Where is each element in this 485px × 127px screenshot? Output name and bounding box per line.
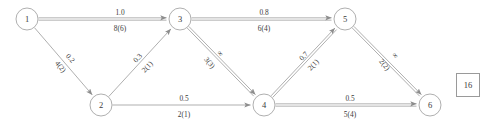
edge-3-to-5 <box>192 18 332 20</box>
node-5: 5 <box>334 8 356 30</box>
edge-capacity-4-to-5: 2(1) <box>306 57 321 73</box>
node-3: 3 <box>169 8 191 30</box>
edge-1-to-2 <box>35 28 93 95</box>
edge-4-to-5 <box>271 28 337 97</box>
edge-layer <box>35 18 422 106</box>
edge-cost-5-to-6: ∞ <box>390 50 400 60</box>
graph-canvas: 123456 1.08(6)0.24(2)0.32(1)0.86(4)∞3(3)… <box>0 0 485 127</box>
node-1: 1 <box>16 8 38 30</box>
edge-label-2-to-4: 0.52(1) <box>178 94 191 119</box>
edge-label-5-to-6: ∞2(2) <box>377 48 403 73</box>
node-2: 2 <box>90 94 112 116</box>
edge-3-to-4 <box>187 26 255 96</box>
node-label-1: 1 <box>25 14 29 24</box>
edge-capacity-1-to-2: 4(2) <box>53 59 68 75</box>
edge-capacity-4-to-6: 5(4) <box>344 110 357 119</box>
edge-label-3-to-4: ∞3(3) <box>202 46 228 71</box>
edge-label-2-to-3: 0.32(1) <box>130 50 155 74</box>
node-label-5: 5 <box>343 14 347 24</box>
edge-cost-3-to-4: ∞ <box>215 48 225 58</box>
node-4: 4 <box>253 94 275 116</box>
edge-capacity-3-to-4: 3(3) <box>202 55 217 71</box>
edge-cost-4-to-6: 0.5 <box>345 94 355 103</box>
edge-4-to-6 <box>276 104 417 106</box>
edge-cost-2-to-4: 0.5 <box>179 94 189 103</box>
node-label-2: 2 <box>99 100 103 110</box>
edge-cost-1-to-3: 1.0 <box>115 8 125 17</box>
annotation-box: 16 <box>456 73 480 97</box>
edge-cost-3-to-5: 0.8 <box>259 8 269 17</box>
network-flow-figure: 123456 1.08(6)0.24(2)0.32(1)0.86(4)∞3(3)… <box>0 0 485 127</box>
edge-capacity-2-to-3: 2(1) <box>140 59 155 75</box>
edge-capacity-5-to-6: 2(2) <box>377 57 392 73</box>
edge-cost-4-to-5: 0.7 <box>297 49 310 62</box>
edge-2-to-3 <box>109 29 171 97</box>
edge-cost-1-to-2: 0.2 <box>64 52 77 65</box>
edge-capacity-2-to-4: 2(1) <box>178 110 191 119</box>
edge-cost-2-to-3: 0.3 <box>131 51 144 64</box>
node-6: 6 <box>419 94 441 116</box>
node-label-6: 6 <box>428 100 432 110</box>
node-label-3: 3 <box>178 14 182 24</box>
edge-capacity-1-to-3: 8(6) <box>114 24 127 33</box>
edge-capacity-3-to-5: 6(4) <box>258 24 271 33</box>
edge-1-to-3 <box>39 18 167 20</box>
